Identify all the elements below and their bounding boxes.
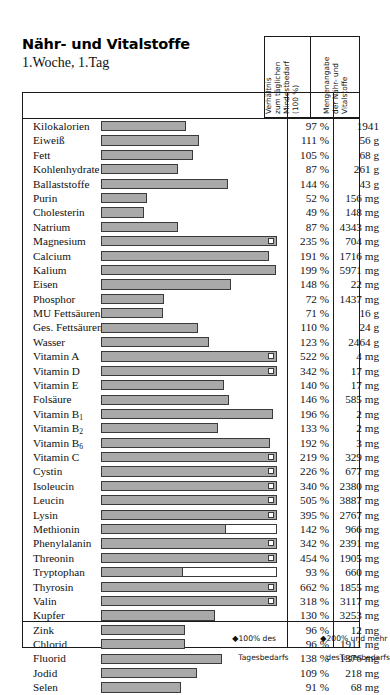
nutrient-bar — [101, 135, 199, 145]
bar-area — [101, 596, 287, 606]
amount-value: 43 g — [335, 177, 379, 191]
overflow-notch-icon — [268, 483, 274, 489]
percent-value: 146 % — [287, 392, 329, 406]
table-row: Kohlenhydrate87 %261 g — [23, 162, 359, 176]
nutrient-label: Ballaststoffe — [33, 177, 89, 191]
amount-value: 148 mg — [335, 205, 379, 219]
percent-value: 144 % — [287, 177, 329, 191]
nutrient-bar — [101, 164, 178, 174]
amount-value: 1716 mg — [335, 249, 379, 263]
nutrient-bar — [101, 452, 277, 462]
table-row: Eiweiß111 %56 g — [23, 133, 359, 147]
amount-value: 3117 mg — [335, 594, 379, 608]
nutrient-label: Vitamin C — [33, 450, 79, 464]
table-row: Magnesium235 %704 mg — [23, 234, 359, 248]
nutrient-label: Eisen — [33, 277, 58, 291]
percent-value: 199 % — [287, 263, 329, 277]
bar-area — [101, 337, 287, 347]
percent-value: 395 % — [287, 508, 329, 522]
amount-value: 677 mg — [335, 464, 379, 478]
percent-value: 505 % — [287, 493, 329, 507]
nutrient-label: Lysin — [33, 508, 58, 522]
nutrient-label: Magnesium — [33, 234, 86, 248]
nutrient-label: Selen — [33, 680, 58, 694]
nutrient-bar — [101, 265, 276, 275]
table-row: Leucin505 %3887 mg — [23, 493, 359, 507]
percent-value: 191 % — [287, 249, 329, 263]
bar-area — [101, 164, 287, 174]
nutrient-bar — [101, 380, 224, 390]
nutrient-label: Phosphor — [33, 292, 75, 306]
legend-200-line1: 200% und mehr — [326, 634, 387, 643]
nutrient-bar — [101, 323, 198, 333]
overflow-notch-icon — [268, 238, 274, 244]
bar-area — [101, 121, 287, 131]
amount-value: 660 mg — [335, 565, 379, 579]
nutrient-label: Vitamin B6 — [33, 436, 83, 450]
nutrient-label: Calcium — [33, 249, 71, 263]
percent-value: 87 % — [287, 220, 329, 234]
table-row: Phenylalanin342 %2391 mg — [23, 536, 359, 550]
percent-value: 72 % — [287, 292, 329, 306]
amount-value: 2 mg — [335, 407, 379, 421]
bar-area — [101, 538, 287, 548]
table-row: Cholesterin49 %148 mg — [23, 205, 359, 219]
nutrient-bar — [101, 222, 178, 232]
nutrient-bar — [101, 538, 277, 548]
nutrient-label: MU Fettsäuren — [33, 306, 100, 320]
bar-area — [101, 236, 287, 246]
nutrient-label: Methionin — [33, 522, 80, 536]
amount-value: 2 mg — [335, 421, 379, 435]
amount-value: 56 g — [335, 133, 379, 147]
bar-area — [101, 251, 287, 261]
nutrient-bar — [101, 294, 164, 304]
percent-value: 52 % — [287, 191, 329, 205]
bar-area — [101, 265, 287, 275]
percent-value: 340 % — [287, 479, 329, 493]
legend-strip: ◆100% des Tagesbedarfs ◆200% und mehr de… — [23, 621, 359, 647]
nutrient-label: Kilokalorien — [33, 119, 90, 133]
legend-100-percent: ◆100% des Tagesbedarfs — [213, 625, 289, 673]
bar-area — [101, 438, 287, 448]
nutrient-label: Wasser — [33, 335, 65, 349]
bar-area — [101, 524, 287, 534]
nutrient-bar — [101, 438, 270, 448]
table-row: Tryptophan93 %660 mg — [23, 565, 359, 579]
amount-value: 68 g — [335, 148, 379, 162]
bar-area — [101, 193, 287, 203]
nutrient-bar — [101, 481, 277, 491]
nutrient-bar — [101, 466, 277, 476]
bar-area — [101, 409, 287, 419]
table-row: Selen91 %68 mg — [23, 680, 359, 694]
nutrient-label: Threonin — [33, 551, 74, 565]
nutrient-label: Isoleucin — [33, 479, 74, 493]
nutrient-bar — [101, 524, 226, 534]
legend-100-line1: 100% des — [238, 634, 276, 643]
nutrient-bar — [101, 682, 181, 692]
legend-200-line2: desTagesbedarfs — [320, 653, 390, 662]
amount-value: 261 g — [335, 162, 379, 176]
amount-value: 5971 mg — [335, 263, 379, 277]
nutrient-label: Eiweiß — [33, 133, 65, 147]
nutrient-label: Cystin — [33, 464, 62, 478]
amount-value: 24 g — [335, 320, 379, 334]
amount-value: 16 g — [335, 306, 379, 320]
table-row: Vitamin B6192 %3 mg — [23, 436, 359, 450]
table-row: Vitamin C219 %329 mg — [23, 450, 359, 464]
percent-value: 111 % — [287, 133, 329, 147]
amount-value: 68 mg — [335, 680, 379, 694]
table-row: Kilokalorien97 %1941 — [23, 119, 359, 133]
percent-value: 71 % — [287, 306, 329, 320]
amount-value: 3 mg — [335, 436, 379, 450]
nutrient-bar — [101, 308, 163, 318]
nutrient-bar — [101, 553, 277, 563]
nutrient-label: Vitamin B1 — [33, 407, 83, 421]
bar-area — [101, 294, 287, 304]
overflow-notch-icon — [268, 368, 274, 374]
bar-area — [101, 150, 287, 160]
nutrient-bar — [101, 610, 215, 620]
nutrient-bar — [101, 423, 218, 433]
nutrient-label: Natrium — [33, 220, 70, 234]
amount-value: 2380 mg — [335, 479, 379, 493]
